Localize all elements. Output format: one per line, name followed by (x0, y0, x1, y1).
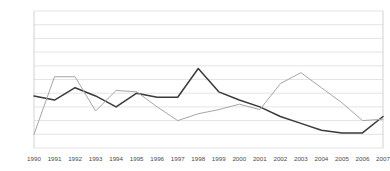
x-tick-label: 1995 (130, 156, 144, 162)
x-tick-label: 1998 (191, 156, 205, 162)
x-tick-label: 1992 (68, 156, 82, 162)
x-tick-label: 1990 (27, 156, 41, 162)
x-tick-label: 1997 (171, 156, 185, 162)
x-tick-label: 1999 (212, 156, 226, 162)
x-tick-label: 2003 (294, 156, 308, 162)
x-tick-label: 1996 (150, 156, 164, 162)
x-tick-label: 1991 (48, 156, 62, 162)
x-tick-label: 2007 (376, 156, 390, 162)
x-tick-label: 2001 (253, 156, 267, 162)
x-tick-label: 1994 (109, 156, 123, 162)
x-tick-label: 2005 (335, 156, 349, 162)
x-tick-label: 2000 (232, 156, 246, 162)
x-tick-label: 2004 (315, 156, 329, 162)
x-tick-label: 1993 (89, 156, 103, 162)
x-tick-label: 2006 (356, 156, 370, 162)
x-tick-label: 2002 (273, 156, 287, 162)
